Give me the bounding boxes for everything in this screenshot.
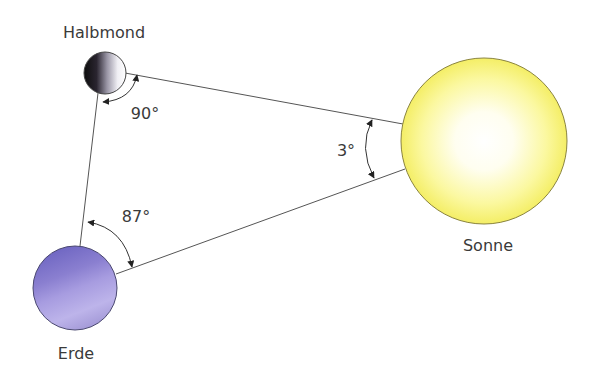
earth-angle-label: 87° <box>122 207 150 226</box>
moon-angle-label: 90° <box>131 104 159 123</box>
sun-angle-arc-icon <box>365 120 374 178</box>
sun-angle-label: 3° <box>337 141 355 160</box>
earth-sun-line <box>116 169 405 274</box>
sun-label: Sonne <box>463 236 513 255</box>
half-moon-diagram: Halbmond Erde Sonne 90° 87° 3° <box>0 0 599 374</box>
earth-circle <box>33 246 117 330</box>
sun-circle <box>401 58 567 224</box>
moon-earth-line <box>80 93 98 246</box>
earth-label: Erde <box>58 344 94 363</box>
moon-sun-line <box>125 73 403 124</box>
moon-label: Halbmond <box>63 23 145 42</box>
moon-circle <box>84 52 126 94</box>
